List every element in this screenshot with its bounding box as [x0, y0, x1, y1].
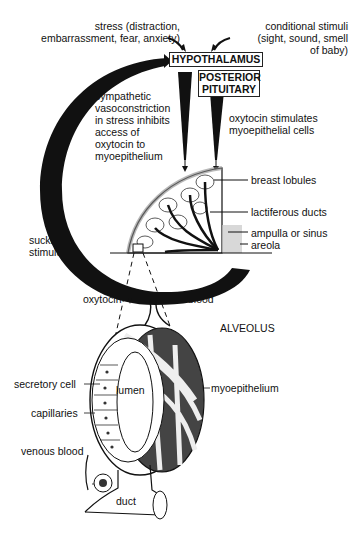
alveolus-title: ALVEOLUS: [220, 322, 275, 334]
pituitary-line-1: POSTERIOR: [199, 71, 259, 83]
hypothalamus-label: HYPOTHALAMUS: [172, 53, 261, 65]
arterial-blood-label: arterial blood: [153, 293, 214, 305]
sucking-stimulus-label: sucking stimulus: [29, 234, 68, 258]
lumen-label: lumen: [116, 384, 145, 396]
oxytocin-stimulates-label: oxytocin stimulates myoepithelial cells: [229, 112, 318, 136]
sympathetic-label: sympathetic vasoconstriction in stress i…: [95, 90, 170, 162]
stress-line-1: stress (distraction,: [20, 20, 180, 32]
hypothalamus-box: HYPOTHALAMUS: [169, 52, 263, 67]
lactiferous-ducts-label: lactiferous ducts: [251, 206, 327, 218]
myoepithelium-label: myoepithelium: [211, 382, 279, 394]
inhibitory-pathway: [178, 72, 192, 160]
conditional-line-2: (sight, sound, smell: [228, 32, 348, 44]
sympathetic-line-4: access of: [95, 126, 170, 138]
areola-label: areola: [251, 239, 280, 251]
capillaries-label: capillaries: [31, 407, 78, 419]
sucking-line-1: sucking: [29, 234, 68, 246]
breast-lobules-label: breast lobules: [251, 174, 316, 186]
sympathetic-line-3: in stress inhibits: [95, 114, 170, 126]
sympathetic-line-1: sympathetic: [95, 90, 170, 102]
conditional-line-1: conditional stimuli: [228, 20, 348, 32]
ampulla-label: ampulla or sinus: [251, 227, 327, 239]
stress-line-2: embarrassment, fear, anxiety): [20, 32, 180, 44]
venous-blood-label: venous blood: [21, 445, 83, 457]
conditional-stimuli-label: conditional stimuli (sight, sound, smell…: [228, 20, 348, 56]
secretory-cell-label: secretory cell: [14, 378, 76, 390]
oxytocin-pathway: [210, 92, 224, 160]
oxytocin-stim-line-1: oxytocin stimulates: [229, 112, 318, 124]
areola-shade: [222, 225, 242, 253]
oxytocin-label: oxytocin: [83, 293, 122, 305]
sympathetic-line-2: vasoconstriction: [95, 102, 170, 114]
posterior-pituitary-box: POSTERIOR PITUITARY: [198, 70, 260, 97]
sympathetic-line-5: oxytocin to: [95, 138, 170, 150]
duct-label: duct: [116, 495, 136, 507]
oxytocin-stim-line-2: myoepithelial cells: [229, 124, 318, 136]
stress-label: stress (distraction, embarrassment, fear…: [20, 20, 180, 44]
alveolus-drawing: [85, 300, 204, 519]
sucking-line-2: stimulus: [29, 246, 68, 258]
pituitary-line-2: PITUITARY: [199, 83, 259, 95]
sympathetic-line-6: myoepithelium: [95, 150, 170, 162]
